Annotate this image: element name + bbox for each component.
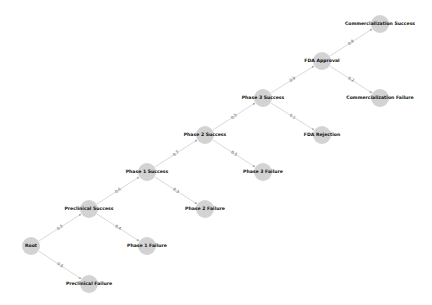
node-fda_r: FDA Rejection bbox=[304, 126, 340, 144]
node-com_f: Commercialization Failure bbox=[346, 89, 413, 107]
node-p3_s: Phase 3 Success bbox=[242, 89, 285, 107]
node-com_s: Commercialization Success bbox=[345, 15, 415, 33]
node-label: Root bbox=[25, 243, 38, 248]
node-p3_f: Phase 3 Failure bbox=[243, 163, 283, 181]
node-p1_s: Phase 1 Success bbox=[126, 163, 169, 181]
node-label: Phase 1 Success bbox=[126, 169, 169, 174]
decision-tree-diagram: RootPreclinical SuccessPreclinical Failu… bbox=[0, 0, 432, 305]
edge-probability-label: 0.5 bbox=[230, 112, 238, 120]
edge-probability-label: 0.8 bbox=[347, 38, 355, 46]
node-label: Phase 2 Failure bbox=[185, 206, 225, 211]
node-label: Preclinical Success bbox=[64, 206, 113, 211]
node-pre_s: Preclinical Success bbox=[64, 200, 113, 218]
node-root: Root bbox=[22, 237, 40, 255]
node-fda_a: FDA Approval bbox=[304, 52, 340, 70]
node-label: Phase 3 Success bbox=[242, 95, 285, 100]
edge-probability-label: 0.6 bbox=[114, 186, 122, 194]
node-label: Commercialization Success bbox=[345, 21, 415, 26]
edge-probability-label: 0.5 bbox=[56, 223, 64, 231]
node-label: FDA Rejection bbox=[304, 132, 340, 137]
node-label: Phase 1 Failure bbox=[127, 243, 167, 248]
node-pre_f: Preclinical Failure bbox=[66, 275, 112, 293]
edge-labels-layer: 0.50.50.60.40.70.30.50.50.90.10.80.2 bbox=[56, 38, 356, 269]
node-label: FDA Approval bbox=[304, 58, 340, 63]
edge-probability-label: 0.9 bbox=[288, 75, 296, 83]
node-label: Phase 3 Failure bbox=[243, 169, 283, 174]
node-label: Phase 2 Success bbox=[184, 132, 227, 137]
edge-probability-label: 0.1 bbox=[289, 112, 297, 120]
edge-probability-label: 0.7 bbox=[172, 149, 180, 157]
node-label: Commercialization Failure bbox=[346, 95, 413, 100]
nodes-layer: RootPreclinical SuccessPreclinical Failu… bbox=[22, 15, 415, 293]
node-p2_s: Phase 2 Success bbox=[184, 126, 227, 144]
node-label: Preclinical Failure bbox=[66, 281, 112, 286]
node-p2_f: Phase 2 Failure bbox=[185, 200, 225, 218]
node-p1_f: Phase 1 Failure bbox=[127, 237, 167, 255]
